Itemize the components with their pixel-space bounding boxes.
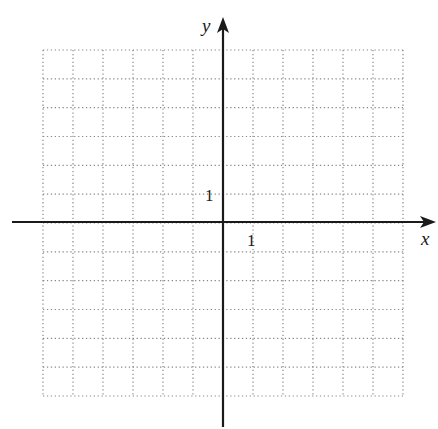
y-unit-label: 1 — [205, 186, 214, 205]
x-unit-label: 1 — [247, 231, 256, 250]
y-axis-label: y — [200, 15, 211, 36]
x-axis-label: x — [420, 228, 430, 249]
coordinate-plane: y y x 1 1 — [0, 0, 438, 429]
